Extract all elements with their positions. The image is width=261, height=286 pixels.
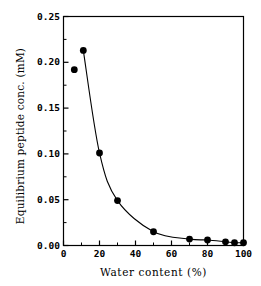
chart-figure: Equilibrium peptide conc. (mM) 0.000.050…: [0, 0, 260, 286]
plot-frame: [64, 17, 244, 246]
data-point: [114, 197, 121, 204]
data-point: [222, 238, 229, 245]
x-tick-label: 80: [188, 249, 228, 259]
data-point: [204, 237, 211, 244]
x-tick-label: 40: [116, 249, 156, 259]
data-point: [80, 47, 87, 54]
x-tick-label: 0: [44, 249, 84, 259]
data-point: [71, 66, 78, 73]
data-markers: [71, 47, 247, 246]
data-point: [96, 150, 103, 157]
axis-ticks: [64, 17, 244, 246]
data-point: [150, 228, 157, 235]
plot-area: [0, 0, 260, 286]
data-point: [186, 236, 193, 243]
x-tick-label: 100: [224, 249, 261, 259]
x-tick-label: 20: [80, 249, 120, 259]
x-tick-label: 60: [152, 249, 192, 259]
data-point: [231, 239, 238, 246]
x-axis-title: Water content (%): [63, 266, 244, 278]
data-point: [240, 239, 247, 246]
data-curve: [83, 50, 243, 242]
